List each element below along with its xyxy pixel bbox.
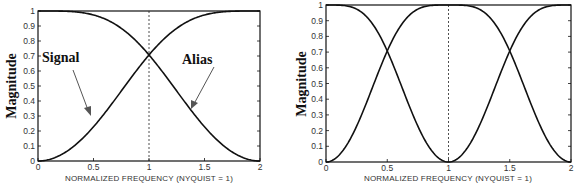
left-plot: 00.10.20.30.40.50.60.70.80.91 00.511.52 … (4, 6, 263, 183)
y-tick-label: 0.8 (23, 36, 35, 46)
y-tick-label: 0.1 (23, 141, 35, 151)
y-tick-label: 0.5 (23, 81, 35, 91)
left-plot-frame (38, 11, 260, 161)
y-tick-label: 1 (318, 0, 323, 10)
figure: 00.10.20.30.40.50.60.70.80.91 00.511.52 … (0, 0, 577, 190)
x-tick-label: 2 (569, 163, 574, 173)
left-y-axis-label: Magnitude (4, 53, 19, 118)
right-x-axis-label: NORMALIZED FREQUENCY (NYQUIST = 1) (364, 174, 532, 183)
y-tick-label: 0.1 (311, 141, 323, 151)
x-tick-label: 1 (147, 162, 152, 172)
y-tick-label: 0.5 (311, 79, 323, 89)
x-tick-label: 1.5 (504, 163, 516, 173)
left-alias-curve (38, 11, 260, 161)
x-tick-label: 1.5 (199, 162, 211, 172)
y-tick-label: 0.9 (311, 16, 323, 26)
y-tick-label: 0.3 (311, 110, 323, 120)
right-plot: 00.10.20.30.40.50.60.70.80.91 00.511.52 … (294, 0, 574, 183)
left-y-ticks: 00.10.20.30.40.50.60.70.80.91 (23, 6, 260, 166)
right-y-axis-label: Magnitude (294, 51, 309, 116)
y-tick-label: 0 (318, 157, 323, 167)
y-tick-label: 0.4 (311, 94, 323, 104)
y-tick-label: 0.3 (23, 111, 35, 121)
alias-annotation: Alias (182, 52, 213, 67)
y-tick-label: 0.7 (311, 47, 323, 57)
y-tick-label: 0 (30, 156, 35, 166)
x-tick-label: 0.5 (88, 162, 100, 172)
y-tick-label: 0.8 (311, 31, 323, 41)
x-tick-label: 2 (258, 162, 263, 172)
y-tick-label: 0.7 (23, 51, 35, 61)
alias-arrow (191, 67, 214, 109)
y-tick-label: 0.2 (311, 126, 323, 136)
signal-arrow (73, 70, 91, 116)
x-tick-label: 1 (446, 163, 451, 173)
x-tick-label: 0.5 (381, 163, 393, 173)
signal-annotation: Signal (42, 50, 79, 65)
x-tick-label: 0 (36, 162, 41, 172)
y-tick-label: 0.4 (23, 96, 35, 106)
y-tick-label: 0.9 (23, 21, 35, 31)
y-tick-label: 0.2 (23, 126, 35, 136)
y-tick-label: 0.6 (23, 66, 35, 76)
left-x-axis-label: NORMALIZED FREQUENCY (NYQUIST = 1) (65, 174, 233, 183)
y-tick-label: 0.6 (311, 63, 323, 73)
left-signal-curve (38, 11, 260, 161)
y-tick-label: 1 (30, 6, 35, 16)
x-tick-label: 0 (324, 163, 329, 173)
right-y-ticks: 00.10.20.30.40.50.60.70.80.91 (311, 0, 571, 167)
